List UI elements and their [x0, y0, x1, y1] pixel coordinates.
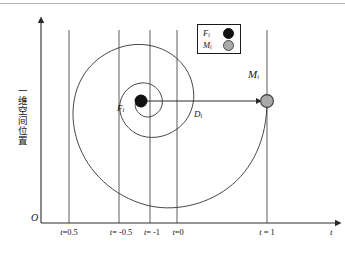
legend-label-F: Fi — [201, 28, 210, 38]
distance-label: Di — [194, 110, 202, 120]
tick-label-t-0_5: t=0.5 — [60, 228, 78, 237]
tick-label-t-0: t=0 — [172, 228, 183, 237]
label-symbol: M — [248, 68, 257, 80]
label-subscript: i — [257, 73, 259, 80]
label-subscript: i — [123, 106, 125, 113]
tick-label-t--1: t= -1 — [144, 228, 160, 237]
legend-label-M: Mi — [201, 40, 212, 50]
tick-value: =0.5 — [63, 228, 78, 237]
label-subscript: i — [201, 112, 203, 119]
point-M-i — [261, 95, 274, 108]
tick-value: = -1 — [146, 228, 160, 237]
tick-value: = 1 — [262, 228, 275, 237]
tick-value: = -0.5 — [112, 228, 132, 237]
y-axis-label: 一维空间位置 — [14, 86, 28, 146]
moving-point-label: Mi — [248, 69, 259, 81]
tick-value: =0 — [175, 228, 184, 237]
spiral-diagram-figure — [0, 0, 345, 257]
gray-circle-icon — [223, 40, 234, 51]
legend-box: Fi Mi — [197, 24, 241, 54]
center-point-label: Fi — [117, 104, 124, 114]
logarithmic-spiral-curve — [73, 44, 267, 207]
tick-label-t--0_5: t= -0.5 — [110, 228, 132, 237]
legend-subscript: i — [208, 32, 210, 38]
point-F-i — [135, 95, 148, 108]
tick-label-t-1: t = 1 — [259, 228, 274, 237]
x-axis-label: t — [330, 228, 333, 237]
legend-subscript: i — [210, 44, 212, 50]
legend-row-M: Mi — [201, 39, 237, 51]
origin-label: O — [31, 213, 38, 223]
filled-circle-icon — [223, 28, 234, 39]
legend-row-F: Fi — [201, 27, 237, 39]
